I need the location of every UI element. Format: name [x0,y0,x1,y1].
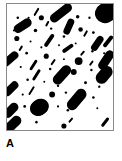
particle-dot [103,66,105,68]
particle-dot [57,105,59,107]
particle-dot [13,30,15,32]
particle-dot [57,85,59,87]
particle-dot [65,91,67,93]
particle-dot [100,18,104,22]
particle-dot [53,17,56,20]
particle-dot [23,105,26,108]
particle-dot [75,42,77,44]
particle-dot [103,52,105,54]
particle-dot [35,121,38,124]
particle-dot [34,29,38,33]
particle-dot [49,92,55,98]
particle-dot [96,107,98,109]
particle-dot [92,96,95,99]
particle-dot [30,40,32,42]
particle-dot [76,58,81,64]
particle-dot [90,69,92,71]
particle-dot [98,86,100,88]
particle-dot [78,27,83,32]
particle-dot [84,81,87,84]
panel-label: A [6,136,26,150]
particle-dot [26,79,29,82]
particle-dot [14,36,19,41]
particle-dot [61,124,66,129]
particle-dot [50,27,52,29]
particle-dot [91,50,93,52]
micrograph-canvas [7,4,113,130]
particle-dot [28,17,30,19]
particle-dot [67,109,70,112]
particle-dot [76,15,80,19]
particle-dot [58,44,60,46]
particle-dot [49,68,52,71]
particle-dot [40,46,42,48]
particle-dot [22,93,24,95]
particle-dot [17,17,20,20]
particle-dot [71,69,77,75]
particle-dot [25,52,28,55]
particle-dot [92,31,95,34]
particle-dot [39,15,44,20]
particle-dot [43,81,45,83]
particle-dot [63,58,65,60]
particle-dot [63,35,66,38]
particle-dot [88,17,90,19]
particle-dot [44,54,49,59]
particle-dot [20,66,22,68]
micrograph-panel [6,3,114,131]
